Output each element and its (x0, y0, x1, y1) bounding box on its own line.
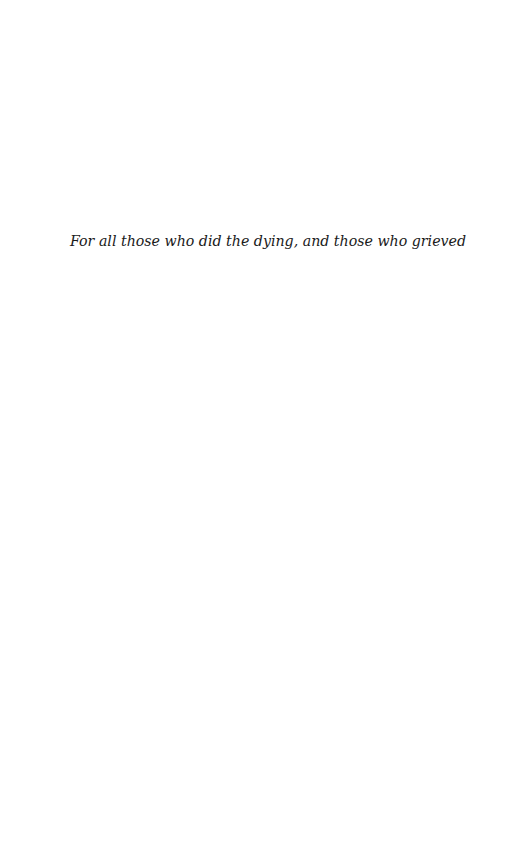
dedication-text: For all those who did the dying, and tho… (70, 231, 466, 251)
dedication-page: For all those who did the dying, and tho… (0, 0, 531, 863)
